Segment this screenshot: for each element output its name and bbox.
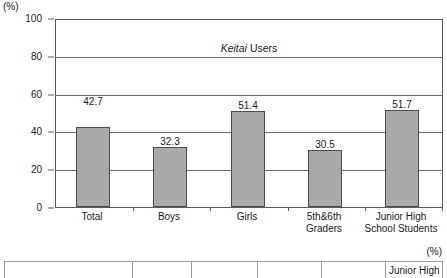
- y-tick-label-100: 100: [25, 14, 42, 24]
- table-header-junior-high: Junior High: [389, 265, 440, 276]
- table-column-divider-2: [191, 262, 192, 278]
- x-axis-label-total-line1: Total: [62, 211, 122, 223]
- x-axis-labels: Total Boys Girls 5th&6th Graders Junior …: [55, 211, 443, 245]
- bar-5th6th-graders[interactable]: [308, 150, 342, 207]
- y-tick-mark-40: [48, 132, 54, 133]
- y-tick-label-0: 0: [36, 203, 42, 213]
- x-axis-label-junior-high-school-students-line1: Junior High: [361, 211, 441, 223]
- bar-girls[interactable]: [231, 111, 265, 207]
- x-axis-label-junior-high-school-students: Junior High School Students: [361, 211, 441, 234]
- x-axis-label-boys: Boys: [139, 211, 199, 223]
- x-axis-label-junior-high-school-students-line2: School Students: [361, 223, 441, 235]
- y-tick-label-40: 40: [31, 127, 42, 137]
- data-table: Junior High: [4, 261, 443, 278]
- bar-total[interactable]: [76, 127, 110, 207]
- table-column-divider-1: [132, 262, 133, 278]
- y-tick-mark-100: [48, 19, 54, 20]
- y-axis-unit-label: (%): [3, 1, 19, 12]
- bar-value-label-boys: 32.3: [147, 136, 193, 147]
- gridline-80: [56, 57, 442, 58]
- bar-junior-high-school-students[interactable]: [385, 110, 419, 207]
- x-axis-label-5th6th-graders-line2: Graders: [294, 223, 354, 235]
- y-tick-mark-20: [48, 170, 54, 171]
- x-axis-label-boys-line1: Boys: [139, 211, 199, 223]
- table-column-divider-4: [321, 262, 322, 278]
- y-tick-label-60: 60: [31, 90, 42, 100]
- bar-value-label-5th6th-graders: 30.5: [302, 139, 348, 150]
- y-tick-label-80: 80: [31, 52, 42, 62]
- chart-title: Keitai Users: [56, 42, 442, 54]
- y-axis: 100 80 60 40 20 0: [0, 19, 52, 208]
- bar-chart-plot-area: Keitai Users 42.7 32.3 51.4 30.5 51.7: [55, 19, 443, 208]
- y-tick-mark-0: [48, 208, 54, 209]
- x-axis-label-girls-line1: Girls: [217, 211, 277, 223]
- x-axis-label-5th6th-graders-line1: 5th&6th: [294, 211, 354, 223]
- chart-title-roman: Users: [250, 42, 277, 54]
- bar-boys[interactable]: [153, 147, 187, 207]
- table-unit-label: (%): [426, 246, 442, 257]
- bar-value-label-total: 42.7: [70, 96, 116, 107]
- y-tick-label-20: 20: [31, 165, 42, 175]
- table-column-divider-5: [385, 262, 386, 278]
- x-axis-label-girls: Girls: [217, 211, 277, 223]
- y-tick-mark-60: [48, 94, 54, 95]
- bar-value-label-junior-high-school-students: 51.7: [379, 99, 425, 110]
- chart-title-italic: Keitai: [221, 42, 247, 54]
- y-tick-mark-80: [48, 56, 54, 57]
- x-axis-label-5th6th-graders: 5th&6th Graders: [294, 211, 354, 234]
- x-axis-label-total: Total: [62, 211, 122, 223]
- table-column-divider-3: [257, 262, 258, 278]
- bar-value-label-girls: 51.4: [225, 100, 271, 111]
